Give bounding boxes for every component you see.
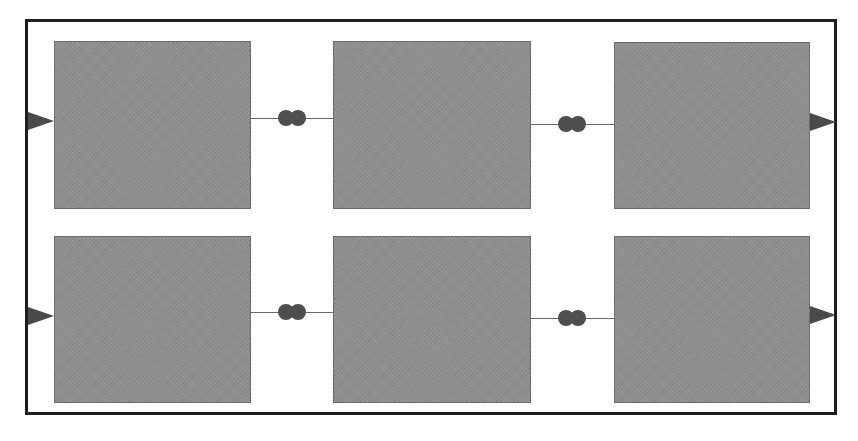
input-port-triangle-icon [28,307,54,325]
input-port-triangle-icon [28,112,54,130]
output-port-triangle-icon [810,113,836,131]
block-r1c3 [614,42,810,209]
double-circle-connector-icon [278,304,306,320]
block-r2c3 [614,236,810,403]
block-r1c2 [333,41,531,209]
double-circle-connector-icon [558,310,586,326]
block-r2c1 [54,236,251,403]
block-r2c2 [333,236,531,403]
block-r1c1 [54,41,251,209]
double-circle-connector-icon [278,110,306,126]
output-port-triangle-icon [810,306,836,324]
double-circle-connector-icon [558,116,586,132]
